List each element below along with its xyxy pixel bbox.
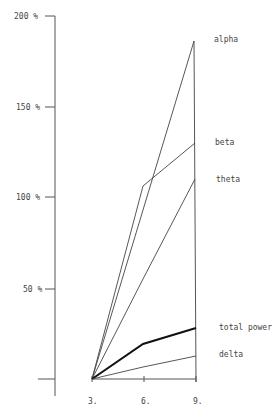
- series-total-power: [92, 328, 196, 379]
- x-label-6: 6.: [141, 397, 151, 406]
- x9-vertical: [194, 41, 196, 382]
- y-label-150: 150 %: [16, 103, 40, 112]
- label-theta: theta: [216, 175, 240, 184]
- label-alpha: alpha: [214, 35, 238, 44]
- line-chart: 200 % 150 % 100 % 50 % 3. 6. 9. alpha be…: [0, 0, 278, 413]
- x-label-9: 9.: [193, 397, 203, 406]
- label-delta: delta: [219, 350, 243, 359]
- x-label-3: 3.: [88, 397, 98, 406]
- y-label-100: 100 %: [16, 193, 40, 202]
- label-total-power: total power: [219, 323, 272, 332]
- y-label-50: 50 %: [23, 285, 42, 294]
- y-label-200: 200 %: [14, 12, 38, 21]
- label-beta: beta: [215, 138, 234, 147]
